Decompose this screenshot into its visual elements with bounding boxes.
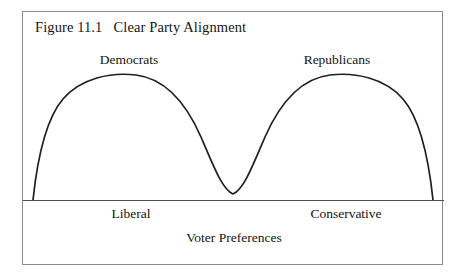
- figure-frame: Figure 11.1 Clear Party Alignment Democr…: [22, 11, 443, 265]
- distribution-curve: [33, 74, 433, 200]
- plot-area: Democrats Republicans Liberal Conservati…: [23, 12, 444, 266]
- curve-label-democrats: Democrats: [100, 52, 158, 68]
- axis-label-conservative: Conservative: [310, 206, 381, 222]
- curve-label-republicans: Republicans: [304, 52, 371, 68]
- distribution-plot: [23, 12, 444, 266]
- x-axis-title: Voter Preferences: [186, 230, 281, 246]
- axis-label-liberal: Liberal: [112, 206, 151, 222]
